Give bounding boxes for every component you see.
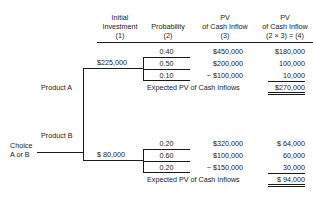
initial-investment: $225,000 xyxy=(97,59,127,67)
header-text: Investment xyxy=(95,23,145,31)
pv-cash-inflow: $450,000 xyxy=(190,48,243,56)
probability: 0.20 xyxy=(143,164,190,172)
weighted-pv: 100,000 xyxy=(255,60,305,68)
branch-label: Product B xyxy=(41,132,73,140)
pv-cash-inflow: $320,000 xyxy=(190,140,243,148)
pv-cash-inflow: − $150,000 xyxy=(190,164,243,172)
weighted-pv: $180,000 xyxy=(255,48,305,56)
header-text: (2) xyxy=(143,32,193,40)
expected-pv-label: Expected PV of Cash Inflows xyxy=(147,176,240,184)
header-text: of Cash Inflow xyxy=(255,23,313,31)
pv-cash-inflow: − $100,000 xyxy=(190,72,243,80)
weighted-pv: 30,000 xyxy=(255,164,305,172)
header-text: Probability xyxy=(143,23,193,31)
header-text: (1) xyxy=(95,32,145,40)
probability: 0.60 xyxy=(143,152,190,160)
expected-pv-value: $270,000 xyxy=(255,84,305,92)
expected-pv-label: Expected PV of Cash Inflows xyxy=(147,84,240,92)
header-text: (2 × 3) = (4) xyxy=(255,32,313,40)
initial-investment: $ 80,000 xyxy=(97,151,125,159)
probability: 0.50 xyxy=(143,60,190,68)
header-text: PV xyxy=(195,14,255,22)
weighted-pv: $ 64,000 xyxy=(255,140,305,148)
header-text: Initial xyxy=(95,14,145,22)
header-text: (3) xyxy=(195,32,255,40)
root-label-line2: A or B xyxy=(10,151,30,159)
pv-cash-inflow: $200,000 xyxy=(190,60,243,68)
probability: 0.10 xyxy=(143,72,190,80)
probability: 0.20 xyxy=(143,140,190,148)
branch-label: Product A xyxy=(41,84,72,92)
expected-pv-value: $ 94,000 xyxy=(255,176,305,184)
header-text: of Cash Inflow xyxy=(195,23,255,31)
header-text: PV xyxy=(255,14,313,22)
probability: 0.40 xyxy=(143,48,190,56)
root-label-line1: Choice xyxy=(10,142,32,150)
pv-cash-inflow: $100,000 xyxy=(190,152,243,160)
weighted-pv: 10,000 xyxy=(255,72,305,80)
weighted-pv: 60,000 xyxy=(255,152,305,160)
